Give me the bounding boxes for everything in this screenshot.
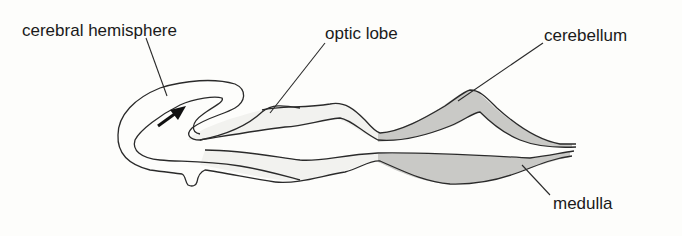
brain-diagram: cerebral hemisphere optic lobe cerebellu… <box>0 0 682 236</box>
leader-cerebral-hemisphere <box>146 38 167 96</box>
label-medulla: medulla <box>553 195 613 212</box>
lower-wall-region <box>200 150 378 181</box>
leader-optic-lobe <box>270 43 325 113</box>
leader-medulla <box>522 165 550 195</box>
label-cerebral-hemisphere: cerebral hemisphere <box>22 22 177 39</box>
label-optic-lobe: optic lobe <box>325 25 398 42</box>
label-cerebellum: cerebellum <box>544 27 627 44</box>
leader-cerebellum <box>458 43 543 101</box>
